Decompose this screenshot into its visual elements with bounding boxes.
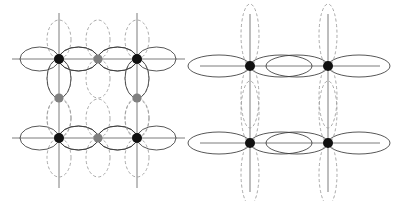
corner-atom-bottom-left [54, 133, 64, 143]
corner-atom-bottom-left [245, 138, 255, 148]
corner-atom-top-right [132, 54, 142, 64]
corner-atom-top-right [323, 61, 333, 71]
edge-atom-right-middle [132, 93, 141, 102]
orbital-lattice-figure [0, 0, 394, 201]
edge-atom-left-middle [54, 93, 63, 102]
corner-atom-top-left [245, 61, 255, 71]
corner-atom-bottom-right [132, 133, 142, 143]
corner-atom-bottom-right [323, 138, 333, 148]
edge-atom-bottom-middle [93, 133, 102, 142]
corner-atom-top-left [54, 54, 64, 64]
figure-canvas [0, 0, 394, 201]
edge-atom-top-middle [93, 54, 102, 63]
